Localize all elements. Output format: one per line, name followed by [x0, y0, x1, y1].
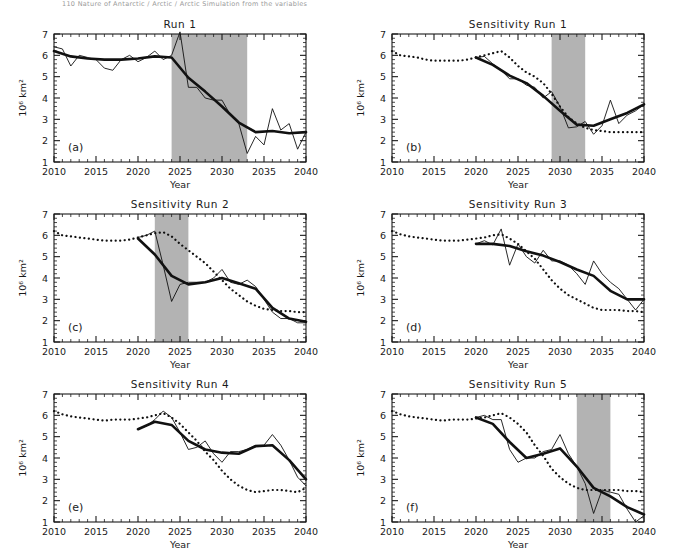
x-tick-label: 2020: [464, 166, 488, 177]
panel-title-f: Sensitivity Run 5: [469, 378, 567, 390]
panel-d: Sensitivity Run 320102015202020252030203…: [355, 198, 656, 370]
y-tick-label: 2: [42, 135, 48, 146]
y-tick-label: 4: [42, 453, 48, 464]
x-axis-label: Year: [169, 359, 190, 370]
y-axis-b: 123456710⁶ km²: [355, 29, 644, 168]
x-tick-label: 2015: [84, 346, 108, 357]
x-tick-label: 2035: [252, 526, 276, 537]
y-tick-label: 5: [42, 71, 48, 82]
x-axis-e: 2010201520202025203020352040Year: [42, 394, 318, 550]
y-axis-a: 123456710⁶ km²: [17, 29, 306, 168]
plot-frame: [392, 34, 644, 162]
y-axis-e: 123456710⁶ km²: [17, 389, 306, 528]
x-axis-label: Year: [507, 179, 528, 190]
x-tick-label: 2040: [632, 346, 656, 357]
x-tick-label: 2040: [632, 166, 656, 177]
panel-title-b: Sensitivity Run 1: [469, 18, 567, 30]
panel-label-e: (e): [68, 501, 83, 514]
x-tick-label: 2030: [548, 166, 572, 177]
panel-title-e: Sensitivity Run 4: [131, 378, 229, 390]
y-tick-label: 4: [42, 273, 48, 284]
y-tick-label: 6: [42, 50, 48, 61]
y-tick-label: 4: [380, 273, 386, 284]
x-tick-label: 2015: [84, 166, 108, 177]
y-axis-label: 10⁶ km²: [17, 259, 28, 297]
y-tick-label: 3: [42, 474, 48, 485]
y-tick-label: 6: [380, 50, 386, 61]
y-tick-label: 1: [380, 517, 386, 528]
x-tick-label: 2010: [380, 166, 404, 177]
plot-frame: [54, 394, 306, 522]
series-smoothed: [476, 417, 644, 514]
y-tick-label: 1: [42, 337, 48, 348]
y-tick-label: 3: [42, 114, 48, 125]
y-tick-label: 6: [42, 230, 48, 241]
x-tick-label: 2025: [168, 346, 192, 357]
y-axis-label: 10⁶ km²: [355, 79, 366, 117]
y-tick-label: 7: [42, 209, 48, 220]
x-tick-label: 2020: [126, 526, 150, 537]
x-axis-label: Year: [507, 359, 528, 370]
y-tick-label: 3: [42, 294, 48, 305]
y-tick-label: 4: [42, 93, 48, 104]
x-tick-label: 2035: [252, 346, 276, 357]
y-tick-label: 3: [380, 294, 386, 305]
y-tick-label: 5: [42, 251, 48, 262]
panel-label-d: (d): [406, 321, 422, 334]
y-tick-label: 6: [380, 410, 386, 421]
y-tick-label: 7: [380, 389, 386, 400]
x-tick-label: 2025: [168, 526, 192, 537]
y-tick-label: 7: [380, 29, 386, 40]
y-tick-label: 2: [380, 315, 386, 326]
y-tick-label: 1: [42, 157, 48, 168]
panel-label-a: (a): [68, 141, 83, 154]
y-tick-label: 2: [380, 495, 386, 506]
x-axis-label: Year: [169, 179, 190, 190]
x-tick-label: 2030: [210, 526, 234, 537]
y-tick-label: 3: [380, 114, 386, 125]
panel-b: Sensitivity Run 120102015202020252030203…: [355, 18, 656, 190]
panel-f: Sensitivity Run 520102015202020252030203…: [355, 378, 656, 550]
y-tick-label: 5: [380, 71, 386, 82]
series-reference-dotted: [54, 411, 306, 492]
series-annual: [476, 229, 644, 310]
x-axis-label: Year: [169, 539, 190, 550]
multi-panel-line-chart: Run 12010201520202025203020352040Year123…: [0, 0, 675, 558]
panel-title-a: Run 1: [163, 18, 196, 30]
panel-label-b: (b): [406, 141, 422, 154]
y-tick-label: 2: [380, 135, 386, 146]
x-tick-label: 2010: [42, 346, 66, 357]
y-tick-label: 7: [42, 389, 48, 400]
x-tick-label: 2010: [380, 346, 404, 357]
x-tick-label: 2020: [464, 346, 488, 357]
x-tick-label: 2035: [590, 166, 614, 177]
panel-title-d: Sensitivity Run 3: [469, 198, 567, 210]
x-tick-label: 2035: [590, 346, 614, 357]
y-axis-label: 10⁶ km²: [17, 79, 28, 117]
y-axis-label: 10⁶ km²: [17, 439, 28, 477]
x-tick-label: 2040: [632, 526, 656, 537]
y-tick-label: 2: [42, 495, 48, 506]
x-tick-label: 2015: [84, 526, 108, 537]
y-tick-label: 4: [380, 93, 386, 104]
panel-c: Sensitivity Run 220102015202020252030203…: [17, 198, 318, 370]
x-axis-label: Year: [507, 539, 528, 550]
y-axis-label: 10⁶ km²: [355, 259, 366, 297]
panel-label-f: (f): [406, 501, 418, 514]
x-tick-label: 2035: [590, 526, 614, 537]
shaded-span: [552, 34, 586, 162]
series-reference-dotted: [392, 231, 644, 312]
x-tick-label: 2040: [294, 166, 318, 177]
series-smoothed: [476, 244, 644, 299]
y-tick-label: 1: [380, 337, 386, 348]
x-tick-label: 2030: [548, 346, 572, 357]
y-tick-label: 5: [380, 251, 386, 262]
panel-label-c: (c): [68, 321, 83, 334]
y-tick-label: 2: [42, 315, 48, 326]
x-tick-label: 2040: [294, 526, 318, 537]
y-tick-label: 1: [42, 517, 48, 528]
x-tick-label: 2010: [42, 166, 66, 177]
y-axis-label: 10⁶ km²: [355, 439, 366, 477]
x-tick-label: 2030: [210, 166, 234, 177]
y-tick-label: 6: [380, 230, 386, 241]
